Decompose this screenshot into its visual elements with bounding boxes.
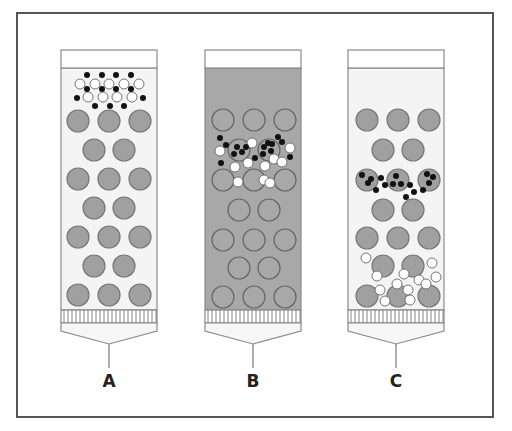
target-molecule xyxy=(113,72,119,78)
target-molecule xyxy=(407,182,413,188)
target-molecule xyxy=(403,194,409,200)
target-molecule xyxy=(128,86,134,92)
unbound-molecule xyxy=(90,79,100,89)
target-molecule xyxy=(424,171,430,177)
unbound-molecule xyxy=(361,253,371,263)
unbound-molecule xyxy=(421,279,431,289)
unbound-molecule xyxy=(392,279,402,289)
target-molecule xyxy=(128,72,134,78)
resin-bead xyxy=(129,110,151,132)
resin-bead xyxy=(113,197,135,219)
column-a xyxy=(61,50,157,368)
resin-bead xyxy=(83,197,105,219)
unbound-molecule xyxy=(372,271,382,281)
target-molecule xyxy=(234,144,240,150)
unbound-molecule xyxy=(243,158,253,168)
resin-bead xyxy=(67,226,89,248)
target-molecule xyxy=(140,95,146,101)
target-molecule xyxy=(268,148,274,154)
resin-bead xyxy=(418,227,440,249)
unbound-molecule xyxy=(375,285,385,295)
resin-bead xyxy=(67,168,89,190)
column-frit xyxy=(348,310,444,323)
target-molecule xyxy=(239,149,245,155)
column-body xyxy=(205,68,301,310)
target-molecule xyxy=(99,86,105,92)
resin-bead xyxy=(418,109,440,131)
column-reservoir xyxy=(205,50,301,68)
column-frit xyxy=(61,310,157,323)
resin-bead xyxy=(387,109,409,131)
target-molecule xyxy=(218,160,224,166)
column-reservoir xyxy=(348,50,444,68)
resin-bead xyxy=(98,110,120,132)
target-molecule xyxy=(231,151,237,157)
resin-bead xyxy=(129,226,151,248)
target-molecule xyxy=(74,95,80,101)
unbound-molecule xyxy=(277,157,287,167)
column-label-a: A xyxy=(89,371,129,391)
unbound-molecule xyxy=(403,285,413,295)
resin-bead xyxy=(98,284,120,306)
resin-bead xyxy=(67,284,89,306)
target-molecule xyxy=(92,103,98,109)
unbound-molecule xyxy=(405,295,415,305)
unbound-molecule xyxy=(119,79,129,89)
unbound-molecule xyxy=(260,161,270,171)
unbound-molecule xyxy=(112,92,122,102)
unbound-molecule xyxy=(83,92,93,102)
unbound-molecule xyxy=(233,177,243,187)
target-molecule xyxy=(373,187,379,193)
column-b xyxy=(205,50,301,368)
target-molecule xyxy=(113,86,119,92)
target-molecule xyxy=(243,144,249,150)
resin-bead xyxy=(83,139,105,161)
target-molecule xyxy=(287,154,293,160)
resin-bead xyxy=(113,255,135,277)
resin-bead xyxy=(372,139,394,161)
diagram-canvas: A B C xyxy=(0,0,512,431)
unbound-molecule xyxy=(75,79,85,89)
unbound-molecule xyxy=(399,269,409,279)
resin-bead xyxy=(372,199,394,221)
target-molecule xyxy=(426,180,432,186)
unbound-molecule xyxy=(285,143,295,153)
target-molecule xyxy=(378,175,384,181)
target-molecule xyxy=(359,172,365,178)
resin-bead xyxy=(402,199,424,221)
unbound-molecule xyxy=(98,92,108,102)
unbound-molecule xyxy=(134,79,144,89)
column-funnel xyxy=(61,323,157,344)
target-molecule xyxy=(275,134,281,140)
column-frit xyxy=(205,310,301,323)
resin-bead xyxy=(98,168,120,190)
target-molecule xyxy=(411,189,417,195)
target-molecule xyxy=(368,176,374,182)
resin-bead xyxy=(113,139,135,161)
target-molecule xyxy=(393,173,399,179)
resin-bead xyxy=(387,169,409,191)
chromatography-columns-illustration xyxy=(0,0,512,431)
target-molecule xyxy=(382,182,388,188)
target-molecule xyxy=(260,151,266,157)
target-molecule xyxy=(279,139,285,145)
target-molecule xyxy=(390,181,396,187)
resin-bead xyxy=(356,285,378,307)
unbound-molecule xyxy=(127,92,137,102)
unbound-molecule xyxy=(431,272,441,282)
target-molecule xyxy=(269,141,275,147)
target-molecule xyxy=(121,103,127,109)
resin-bead xyxy=(356,109,378,131)
unbound-molecule xyxy=(265,178,275,188)
target-molecule xyxy=(430,174,436,180)
unbound-molecule xyxy=(230,162,240,172)
resin-bead xyxy=(98,226,120,248)
resin-bead xyxy=(356,227,378,249)
resin-bead xyxy=(402,139,424,161)
resin-bead xyxy=(129,284,151,306)
target-molecule xyxy=(398,181,404,187)
unbound-molecule xyxy=(427,258,437,268)
target-molecule xyxy=(99,72,105,78)
target-molecule xyxy=(420,187,426,193)
column-c xyxy=(348,50,444,368)
